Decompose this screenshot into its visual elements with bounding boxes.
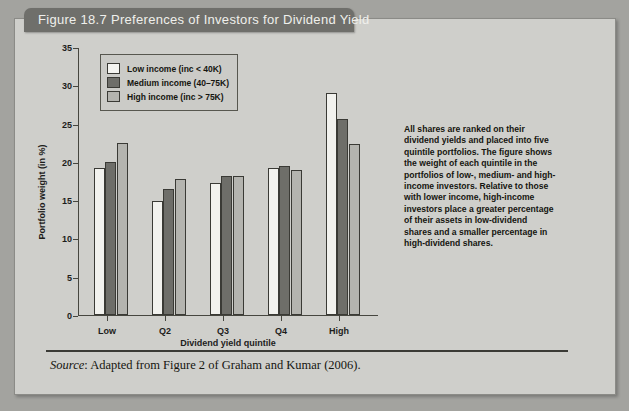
source-prefix: Source (50, 358, 84, 372)
page-title: Figure 18.7 Preferences of Investors for… (38, 12, 370, 27)
y-axis-tick-label: 15 (48, 196, 72, 206)
source-line: Source: Adapted from Figure 2 of Graham … (50, 358, 361, 373)
bar (337, 119, 348, 315)
legend-label: Medium income (40–75K) (127, 78, 229, 88)
x-axis-tick-label: Q4 (256, 326, 306, 336)
y-axis-tick-label: 0 (48, 311, 72, 321)
legend-item: Low income (inc < 40K) (107, 63, 229, 74)
bar-group (326, 47, 361, 315)
bar (279, 166, 290, 315)
legend-item: High income (inc > 75K) (107, 91, 229, 102)
source-divider (46, 350, 568, 352)
figure-title-tab: Figure 18.7 Preferences of Investors for… (24, 8, 354, 32)
y-axis-tick (73, 201, 78, 202)
x-axis-tick-label: Q3 (198, 326, 248, 336)
chart-legend: Low income (inc < 40K)Medium income (40–… (100, 54, 238, 111)
y-axis-tick-label: 25 (48, 120, 72, 130)
y-axis-tick-label: 35 (48, 43, 72, 53)
bar (175, 179, 186, 315)
legend-item: Medium income (40–75K) (107, 77, 229, 88)
legend-swatch (107, 77, 120, 88)
y-axis-tick-label: 30 (48, 81, 72, 91)
x-axis-tick (281, 316, 282, 321)
x-axis-tick (165, 316, 166, 321)
bar (291, 170, 302, 315)
x-axis-tick (339, 316, 340, 321)
chart-plot-area: Portfolio weight (in %) 05101520253035Lo… (44, 42, 404, 342)
x-axis-line (78, 315, 378, 316)
bar (210, 183, 221, 315)
bar (233, 176, 244, 315)
legend-swatch (107, 91, 120, 102)
source-text: Adapted from Figure 2 of Graham and Kuma… (90, 358, 360, 372)
x-axis-tick (223, 316, 224, 321)
y-axis-tick (73, 239, 78, 240)
y-axis-tick (73, 316, 78, 317)
bar-group (268, 47, 303, 315)
y-axis-label: Portfolio weight (in %) (37, 145, 47, 240)
y-axis-tick (73, 278, 78, 279)
legend-label: Low income (inc < 40K) (127, 64, 222, 74)
figure-page: Figure 18.7 Preferences of Investors for… (0, 0, 629, 411)
x-axis-label: Dividend yield quintile (78, 338, 378, 348)
bar (117, 143, 128, 315)
bar (94, 168, 105, 315)
y-axis-tick-label: 5 (48, 273, 72, 283)
bar (268, 168, 279, 315)
y-axis-tick (73, 163, 78, 164)
bar (221, 176, 232, 315)
figure-note: All shares are ranked on their dividend … (404, 124, 556, 249)
legend-label: High income (inc > 75K) (127, 92, 224, 102)
bar (163, 189, 174, 315)
legend-swatch (107, 63, 120, 74)
y-axis-tick (73, 48, 78, 49)
x-axis-tick-label: Q2 (140, 326, 190, 336)
bar (326, 93, 337, 315)
y-axis-tick (73, 125, 78, 126)
x-axis-tick (107, 316, 108, 321)
y-axis-tick-label: 20 (48, 158, 72, 168)
x-axis-tick-label: Low (82, 326, 132, 336)
y-axis-tick (73, 86, 78, 87)
y-axis-tick-label: 10 (48, 234, 72, 244)
bar (152, 201, 163, 315)
y-axis-line (78, 48, 79, 316)
bar (349, 144, 360, 315)
bar (105, 162, 116, 315)
x-axis-tick-label: High (314, 326, 364, 336)
